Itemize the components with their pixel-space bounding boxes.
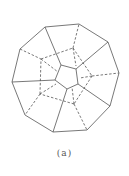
solid-edge: [25, 115, 53, 132]
solid-edge: [76, 42, 108, 69]
solid-edge: [67, 84, 78, 89]
dashed-edge: [80, 76, 92, 78]
dashed-edge: [73, 48, 92, 76]
solid-edge: [12, 80, 55, 82]
dashed-edge: [41, 48, 73, 59]
solid-edge: [53, 130, 87, 132]
dashed-edge: [74, 76, 92, 104]
solid-edge: [12, 82, 25, 115]
dashed-edge: [40, 59, 41, 94]
solid-edge: [53, 89, 67, 132]
dashed-edge: [92, 73, 119, 76]
solid-edge: [55, 65, 61, 80]
solid-edge: [12, 49, 20, 82]
solid-edge: [87, 106, 110, 130]
solid-edge: [78, 84, 110, 106]
dashed-edge: [41, 59, 58, 72]
solid-edge: [45, 24, 79, 27]
solid-edge: [79, 24, 108, 42]
solid-edge: [61, 65, 76, 69]
dashed-edge: [72, 87, 74, 104]
figure-caption: (a): [0, 148, 129, 158]
solid-edge: [20, 27, 45, 49]
dashed-edge: [40, 94, 74, 104]
solid-edge: [45, 27, 61, 65]
solid-edge: [108, 42, 119, 73]
dashed-edge: [40, 84, 56, 94]
solid-edges: [12, 24, 119, 132]
solid-edge: [76, 69, 78, 84]
solid-edge: [110, 73, 119, 106]
dashed-edge: [73, 48, 76, 66]
solid-edge: [55, 80, 67, 89]
dashed-edge: [73, 24, 79, 48]
dashed-edge: [25, 94, 40, 115]
dashed-edge: [20, 49, 41, 59]
dashed-edge: [74, 104, 87, 130]
